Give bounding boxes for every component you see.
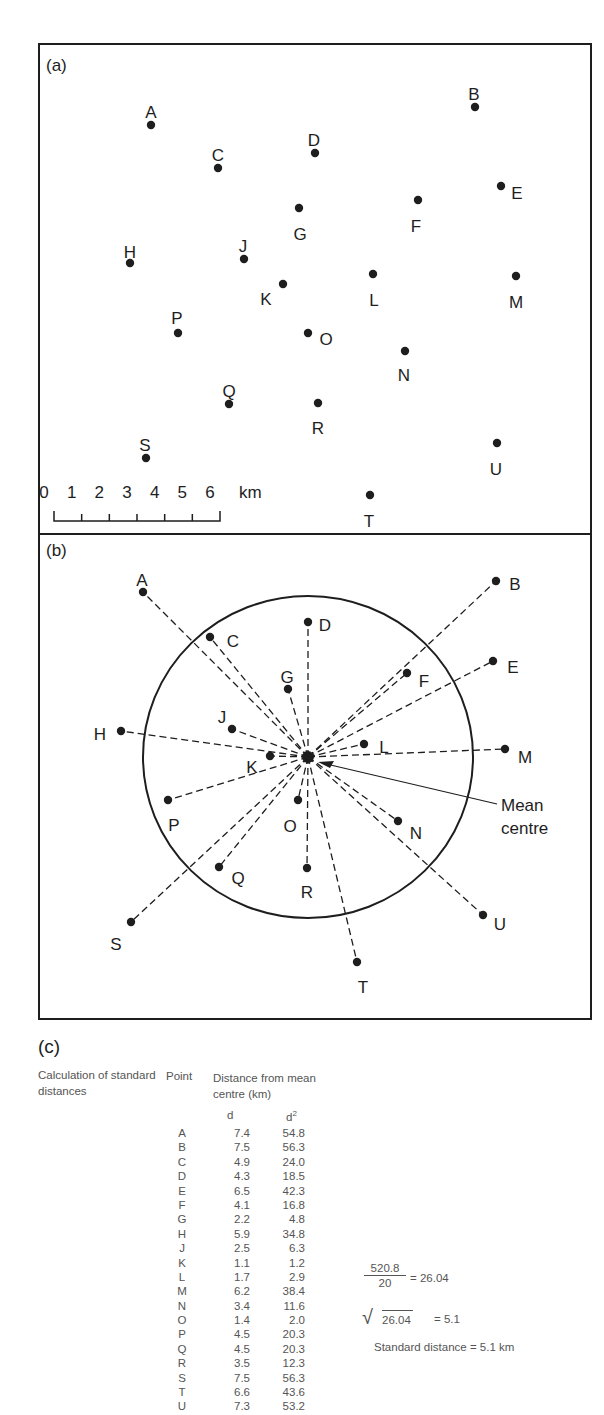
row-distance: 4.5	[210, 1327, 250, 1341]
fraction-numerator: 520.8	[364, 1262, 406, 1276]
point-h: H	[94, 725, 125, 744]
point-m: M	[501, 745, 532, 767]
row-point: S	[175, 1371, 189, 1385]
point-label: B	[509, 575, 520, 594]
table-row: F4.116.8	[160, 1198, 360, 1212]
row-distance-squared: 18.5	[260, 1169, 305, 1183]
table-row: E6.542.3	[160, 1184, 360, 1198]
row-distance-squared: 42.3	[260, 1184, 305, 1198]
row-point: U	[175, 1399, 189, 1413]
table-row: J2.56.3	[160, 1241, 360, 1255]
mean-centre-annotation: Mean centre	[318, 761, 548, 838]
row-point: G	[175, 1212, 189, 1226]
distance-line-h	[121, 731, 308, 757]
point-label: D	[308, 131, 320, 150]
point-dot-icon	[228, 725, 236, 733]
point-label: K	[246, 758, 258, 777]
column-header-point: Point	[166, 1070, 192, 1082]
row-distance: 6.5	[210, 1184, 250, 1198]
scale-tick-label: 5	[178, 483, 187, 502]
row-distance-squared: 20.3	[260, 1327, 305, 1341]
point-dot-icon	[225, 400, 233, 408]
point-t: T	[353, 958, 368, 997]
point-dot-icon	[489, 657, 497, 665]
point-label: F	[411, 217, 421, 236]
point-q: Q	[222, 382, 235, 408]
point-l: L	[369, 270, 379, 310]
row-point: Q	[175, 1342, 189, 1356]
point-dot-icon	[353, 958, 361, 966]
row-distance: 1.4	[210, 1313, 250, 1327]
point-label: B	[468, 85, 479, 104]
mean-centre-marker	[302, 751, 314, 763]
scale-tick-label: 4	[150, 483, 159, 502]
point-g: G	[293, 204, 306, 244]
point-label: C	[227, 632, 239, 651]
row-point: M	[175, 1284, 189, 1298]
point-dot-icon	[501, 745, 509, 753]
point-label: J	[239, 237, 248, 256]
row-point: J	[175, 1241, 189, 1255]
point-d: D	[308, 131, 320, 157]
row-distance-squared: 6.3	[260, 1241, 305, 1255]
row-distance-squared: 53.2	[260, 1399, 305, 1413]
panel-c-calculation: (c) Calculation of standard distances Po…	[0, 1030, 604, 1415]
row-point: L	[175, 1270, 189, 1284]
point-dot-icon	[240, 255, 248, 263]
point-label: L	[369, 291, 378, 310]
row-point: D	[175, 1169, 189, 1183]
distance-line-q	[219, 757, 308, 867]
point-label: S	[139, 436, 150, 455]
panel-b-points: ABCDEFGHJKLMNOPQRSTU	[94, 571, 532, 997]
point-s: S	[139, 436, 150, 462]
scale-tick-label: 3	[122, 483, 131, 502]
point-dot-icon	[174, 329, 182, 337]
point-f: F	[411, 196, 422, 236]
row-point: C	[175, 1155, 189, 1169]
scale-tick-label: 2	[95, 483, 104, 502]
mean-square-fraction: 520.8 20	[364, 1262, 406, 1289]
point-dot-icon	[147, 121, 155, 129]
table-row: L1.72.9	[160, 1270, 360, 1284]
table-row: M6.238.4	[160, 1284, 360, 1298]
point-s: S	[110, 918, 135, 954]
point-label: C	[212, 146, 224, 165]
point-label: A	[145, 103, 157, 122]
point-r: R	[301, 864, 313, 902]
mean-square-result: = 26.04	[410, 1272, 449, 1284]
row-distance-squared: 12.3	[260, 1356, 305, 1370]
point-label: T	[364, 512, 374, 531]
standard-distance-result: Standard distance = 5.1 km	[374, 1341, 514, 1353]
point-dot-icon	[401, 347, 409, 355]
point-label: P	[171, 309, 182, 328]
row-distance-squared: 43.6	[260, 1385, 305, 1399]
point-dot-icon	[215, 863, 223, 871]
point-u: U	[490, 439, 502, 479]
distance-line-r	[307, 757, 308, 868]
row-point: N	[175, 1299, 189, 1313]
point-o: O	[304, 329, 333, 349]
table-row: T6.643.6	[160, 1385, 360, 1399]
point-label: R	[301, 883, 313, 902]
point-c: C	[212, 146, 224, 172]
point-a: A	[145, 103, 157, 129]
point-label: G	[280, 668, 293, 687]
row-distance-squared: 4.8	[260, 1212, 305, 1226]
maps-overlay: (a) ABCDEFGHJKLMNOPQRSTU 0123456 km (b) …	[0, 0, 604, 1030]
point-dot-icon	[492, 577, 500, 585]
point-dot-icon	[294, 796, 302, 804]
point-label: N	[398, 366, 410, 385]
point-e: E	[497, 182, 523, 203]
point-dot-icon	[311, 149, 319, 157]
point-k: K	[246, 752, 274, 777]
scale-tick-label: 1	[67, 483, 76, 502]
row-distance: 4.3	[210, 1169, 250, 1183]
point-t: T	[364, 491, 374, 531]
point-label: R	[312, 419, 324, 438]
distance-line-m	[308, 749, 505, 757]
panel-b-distance-lines	[121, 581, 505, 962]
point-dot-icon	[206, 633, 214, 641]
row-distance-squared: 1.2	[260, 1256, 305, 1270]
panel-c-label: (c)	[38, 1036, 60, 1058]
distance-line-o	[298, 757, 308, 800]
